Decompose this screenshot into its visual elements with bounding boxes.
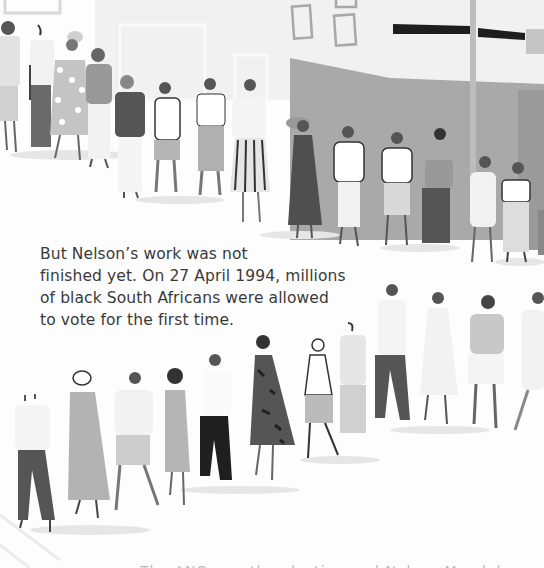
person-figure: [15, 394, 55, 532]
person-figure: [50, 31, 90, 160]
person-figure: [115, 372, 158, 510]
person-figure: [230, 79, 270, 222]
story-line-1: But Nelson’s work was not: [40, 243, 280, 265]
person-figure: [200, 354, 232, 480]
person-figure: [340, 323, 366, 433]
person-figure: [165, 368, 190, 505]
person-figure: [115, 75, 145, 198]
person-figure: [375, 284, 410, 420]
story-line-4: to vote for the first time.: [40, 309, 280, 331]
person-figure: [197, 78, 225, 195]
person-figure: [154, 82, 180, 192]
story-paragraph: But Nelson’s work was not finished yet. …: [40, 243, 280, 331]
story-line-2: finished yet. On 27 April 1994, millions: [40, 265, 280, 287]
person-figure: [468, 295, 504, 428]
book-page: But Nelson’s work was not finished yet. …: [0, 0, 544, 568]
person-figure: [515, 292, 544, 430]
story-line-3: of black South Africans were allowed: [40, 287, 280, 309]
cutoff-footer-text: The ANC won the election and Nelson Mand…: [140, 560, 511, 568]
person-figure: [86, 48, 112, 168]
person-figure: [250, 335, 295, 480]
person-figure: [420, 292, 458, 424]
person-figure: [68, 371, 110, 518]
person-figure: [305, 339, 338, 458]
person-figure: [30, 25, 54, 147]
person-figure: [0, 21, 20, 152]
